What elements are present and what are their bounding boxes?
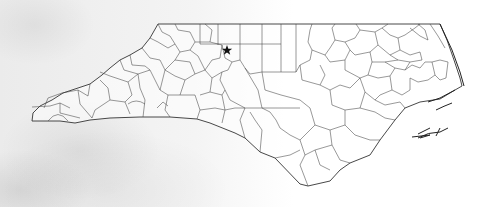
map-container [0, 0, 488, 207]
nc-county-map [0, 0, 488, 207]
state-outline [32, 24, 462, 186]
